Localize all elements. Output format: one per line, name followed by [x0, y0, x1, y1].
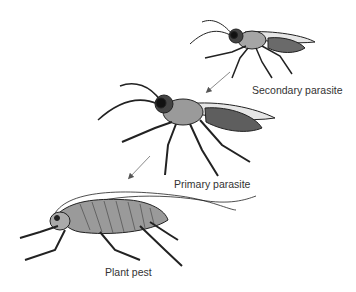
diagram-canvas	[0, 0, 356, 292]
primary-parasite-wasp	[98, 84, 275, 176]
label-secondary-parasite: Secondary parasite	[252, 84, 342, 96]
secondary-parasite-wasp	[190, 21, 315, 79]
label-plant-pest: Plant pest	[105, 266, 152, 278]
arrow-primary-to-pest	[130, 156, 150, 177]
arrow-secondary-to-primary	[208, 72, 230, 91]
label-primary-parasite: Primary parasite	[174, 178, 250, 190]
plant-pest-katydid	[20, 192, 256, 266]
